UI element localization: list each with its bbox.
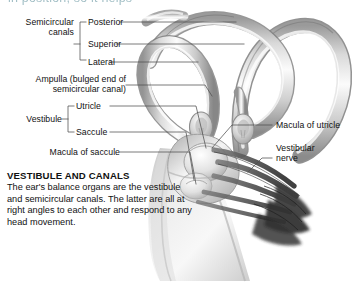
label-ampulla-line2: semicircular canal) — [0, 84, 126, 94]
illustration-page: in position, so it helps — [0, 0, 355, 282]
label-vestibule: Vestibule — [0, 114, 62, 124]
caption-title: VESTIBULE AND CANALS — [7, 170, 130, 181]
label-saccule: Saccule — [76, 127, 107, 137]
label-macula-of-utricle: Macula of utricle — [276, 120, 340, 130]
ampulla-superior — [232, 114, 254, 144]
label-ampulla-line1: Ampulla (bulged end of — [0, 74, 126, 84]
label-posterior: Posterior — [88, 17, 123, 27]
label-vestibular-nerve-line2: nerve — [276, 153, 298, 163]
inner-ear-illustration — [0, 0, 355, 282]
caption-body: The ear's balance organs are the vestibu… — [7, 182, 192, 228]
label-utricle: Utricle — [76, 101, 101, 111]
label-lateral: Lateral — [88, 57, 115, 67]
label-vestibular-nerve-line1: Vestibular — [276, 143, 315, 153]
label-macula-of-saccule: Macula of saccule — [0, 147, 120, 157]
label-semicircular-canals-line1: Semicircular — [0, 17, 74, 27]
label-superior: Superior — [88, 39, 121, 49]
label-semicircular-canals-line2: canals — [0, 27, 74, 37]
